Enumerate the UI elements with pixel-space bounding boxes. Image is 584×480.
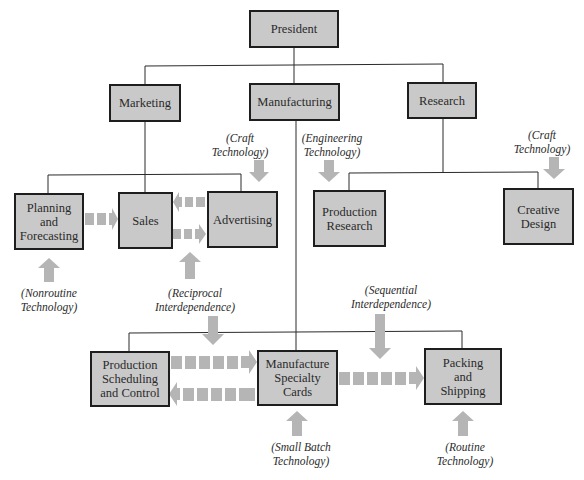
- arrow-small-batch-up: [286, 411, 308, 436]
- node-label: Manufacture Specialty Cards: [266, 357, 330, 399]
- arrow-sales-to-advertising: [173, 224, 206, 244]
- node-research: Research: [407, 82, 477, 119]
- node-creative-design: Creative Design: [503, 188, 574, 245]
- node-label: Packing and Shipping: [440, 356, 485, 398]
- org-chart-diagram: President Marketing Manufacturing Resear…: [0, 0, 584, 480]
- node-label: Advertising: [213, 213, 272, 227]
- note-craft-technology-advertising: (Craft Technology): [200, 131, 280, 159]
- note-small-batch-technology: (Small Batch Technology): [256, 440, 346, 468]
- connectors-layer: [0, 0, 584, 480]
- arrow-manufacture-to-packing: [339, 366, 424, 390]
- node-label: Manufacturing: [257, 95, 331, 109]
- arrow-craft-to-creative-design: [543, 157, 565, 179]
- note-engineering-technology: (Engineering Technology): [292, 131, 372, 159]
- arrow-sequential-down: [369, 314, 391, 359]
- arrow-planning-to-sales: [85, 208, 118, 230]
- arrow-manufacture-to-scheduling: [169, 382, 255, 406]
- arrow-reciprocal-up: [179, 252, 201, 279]
- note-craft-technology-design: (Craft Technology): [500, 128, 584, 156]
- node-label: Production Scheduling and Control: [100, 358, 159, 400]
- node-planning-and-forecasting: Planning and Forecasting: [14, 193, 84, 250]
- node-president: President: [249, 10, 339, 48]
- note-routine-technology: (Routine Technology): [420, 440, 510, 468]
- arrow-reciprocal-down: [202, 316, 224, 345]
- arrow-craft-to-advertising: [249, 160, 269, 182]
- node-label: Marketing: [119, 96, 171, 110]
- node-packing-and-shipping: Packing and Shipping: [424, 348, 502, 405]
- node-label: Creative Design: [517, 203, 559, 231]
- node-production-scheduling-and-control: Production Scheduling and Control: [90, 351, 170, 407]
- node-advertising: Advertising: [207, 191, 278, 248]
- node-label: Research: [419, 94, 465, 108]
- arrow-routine-up: [452, 411, 474, 436]
- node-label: Production Research: [322, 205, 377, 233]
- node-marketing: Marketing: [109, 84, 181, 122]
- node-manufacture-specialty-cards: Manufacture Specialty Cards: [257, 350, 338, 406]
- node-sales: Sales: [118, 192, 173, 249]
- note-nonroutine-technology: (Nonroutine Technology): [4, 286, 94, 314]
- arrow-scheduling-to-manufacture: [171, 350, 257, 374]
- node-label: Planning and Forecasting: [20, 201, 78, 243]
- node-manufacturing: Manufacturing: [249, 83, 340, 121]
- arrow-engineering-to-production-research: [318, 160, 340, 182]
- arrow-nonroutine-to-planning: [38, 258, 60, 282]
- node-label: President: [271, 22, 318, 36]
- note-sequential-interdependence: (Sequential Interdependence): [336, 283, 446, 311]
- arrow-advertising-to-sales: [173, 192, 205, 212]
- node-label: Sales: [132, 214, 158, 228]
- note-reciprocal-interdependence: (Reciprocal Interdependence): [140, 286, 250, 314]
- node-production-research: Production Research: [313, 190, 386, 247]
